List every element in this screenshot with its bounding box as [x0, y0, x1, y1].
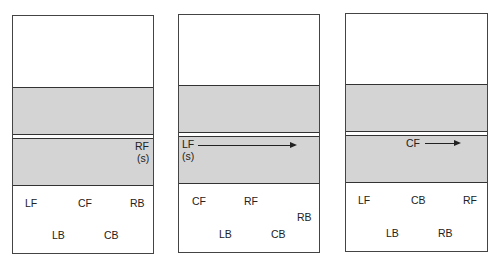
player-position-label: CB: [104, 229, 119, 241]
movement-arrow-icon: [198, 145, 295, 146]
court-panel-3: CFLFCBRFLBRB: [345, 13, 488, 252]
player-position-label: LB: [219, 228, 232, 240]
player-position-label: RB: [438, 227, 453, 239]
player-position-label: LF: [25, 197, 37, 209]
player-position-label: RF: [463, 194, 477, 206]
player-position-label: LF: [182, 138, 194, 150]
movement-arrow-icon: [425, 143, 459, 144]
player-position-label: CF: [192, 195, 206, 207]
player-position-label: RB: [130, 197, 145, 209]
opponent-front-zone: [13, 87, 153, 135]
player-position-label: LB: [52, 229, 65, 241]
own-front-zone: [179, 136, 319, 184]
player-position-label: (s): [137, 152, 149, 164]
player-position-label: (s): [182, 150, 194, 162]
player-position-label: LB: [386, 227, 399, 239]
player-position-label: LF: [358, 194, 370, 206]
court-panel-1: RF(s)LFCFRBLBCB: [12, 15, 154, 254]
player-position-label: CF: [406, 137, 420, 149]
opponent-front-zone: [179, 85, 319, 133]
player-position-label: CB: [411, 194, 426, 206]
player-position-label: RF: [244, 195, 258, 207]
player-position-label: CF: [78, 197, 92, 209]
opponent-front-zone: [346, 84, 487, 132]
player-position-label: RF: [135, 140, 149, 152]
own-front-zone: [13, 138, 153, 186]
player-position-label: CB: [271, 228, 286, 240]
player-position-label: RB: [297, 211, 312, 223]
court-panel-2: LF(s)CFRFRBLBCB: [178, 14, 320, 253]
